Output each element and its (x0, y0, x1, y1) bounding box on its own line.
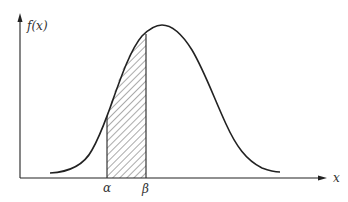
y-axis (18, 13, 23, 178)
alpha-label: α (103, 181, 111, 195)
density-curve (50, 25, 280, 173)
normal-curve-figure: f(x) x α β (0, 0, 348, 202)
x-axis (20, 176, 327, 181)
beta-label: β (141, 182, 149, 196)
y-axis-label: f(x) (26, 19, 48, 33)
x-axis-label: x (333, 171, 340, 185)
